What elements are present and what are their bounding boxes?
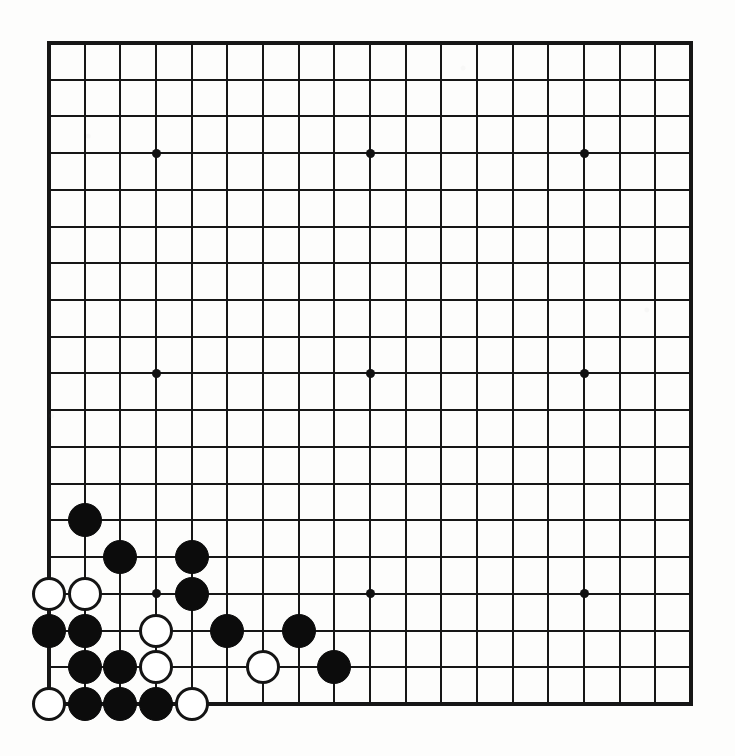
stone-black[interactable] bbox=[210, 614, 244, 648]
star-point bbox=[152, 149, 161, 158]
star-point bbox=[580, 589, 589, 598]
star-point bbox=[580, 369, 589, 378]
stone-black[interactable] bbox=[139, 687, 173, 721]
grid-line-vertical bbox=[689, 41, 693, 706]
stone-white[interactable] bbox=[139, 650, 173, 684]
star-point bbox=[366, 369, 375, 378]
stone-white[interactable] bbox=[246, 650, 280, 684]
stone-black[interactable] bbox=[32, 614, 66, 648]
stone-white[interactable] bbox=[68, 577, 102, 611]
grid-line-vertical bbox=[619, 43, 621, 704]
star-point bbox=[580, 149, 589, 158]
stone-black[interactable] bbox=[282, 614, 316, 648]
grid-line-vertical bbox=[476, 43, 478, 704]
grid-line-vertical bbox=[547, 43, 549, 704]
stone-black[interactable] bbox=[175, 540, 209, 574]
stone-black[interactable] bbox=[68, 687, 102, 721]
board-surface[interactable] bbox=[0, 0, 735, 756]
stone-black[interactable] bbox=[175, 577, 209, 611]
grid-line-vertical bbox=[262, 43, 264, 704]
stone-black[interactable] bbox=[317, 650, 351, 684]
stone-black[interactable] bbox=[68, 650, 102, 684]
go-board-diagram bbox=[0, 0, 735, 756]
grid-line-vertical bbox=[226, 43, 228, 704]
stone-white[interactable] bbox=[32, 577, 66, 611]
grid-line-vertical bbox=[440, 43, 442, 704]
grid-line-vertical bbox=[405, 43, 407, 704]
stone-white[interactable] bbox=[175, 687, 209, 721]
grid-line-vertical bbox=[298, 43, 300, 704]
star-point bbox=[366, 149, 375, 158]
star-point bbox=[152, 369, 161, 378]
star-point bbox=[366, 589, 375, 598]
grid-line-vertical bbox=[512, 43, 514, 704]
grid-line-vertical bbox=[119, 43, 121, 704]
stone-black[interactable] bbox=[103, 687, 137, 721]
stone-black[interactable] bbox=[103, 540, 137, 574]
stone-black[interactable] bbox=[103, 650, 137, 684]
stone-black[interactable] bbox=[68, 503, 102, 537]
grid-line-vertical bbox=[333, 43, 335, 704]
stone-black[interactable] bbox=[68, 614, 102, 648]
star-point bbox=[152, 589, 161, 598]
grid-line-vertical bbox=[654, 43, 656, 704]
stone-white[interactable] bbox=[139, 614, 173, 648]
stone-white[interactable] bbox=[32, 687, 66, 721]
